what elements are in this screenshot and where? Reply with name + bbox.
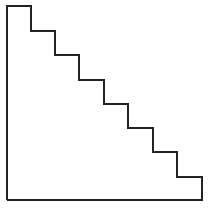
staircase-diagram: [0, 0, 210, 209]
staircase-outline: [7, 6, 202, 200]
